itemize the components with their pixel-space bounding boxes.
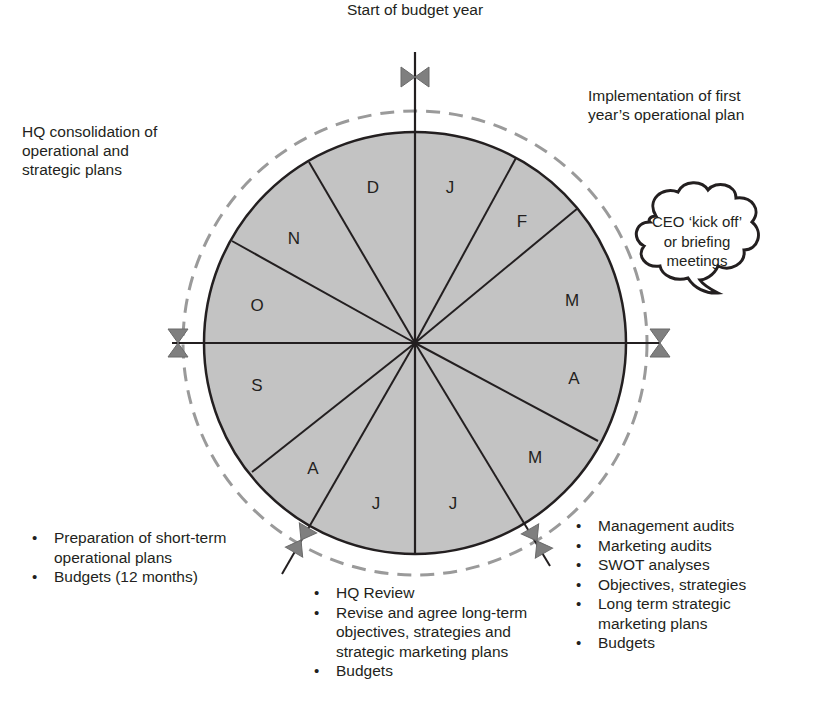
segment-label-sep: S bbox=[251, 376, 262, 395]
bullet-item: Marketing audits bbox=[572, 536, 812, 556]
segment-label-apr: A bbox=[568, 369, 580, 388]
segment-label-dec: D bbox=[367, 178, 379, 197]
audits-list: Management audits Marketing audits SWOT … bbox=[572, 516, 812, 653]
bullet-item: Budgets (12 months) bbox=[28, 567, 298, 587]
segment-label-jun: J bbox=[449, 494, 458, 513]
implementation-line-2: year’s operational plan bbox=[588, 105, 815, 124]
hq-consolidation-line-2: operational and bbox=[22, 141, 222, 160]
ceo-kickoff-cloud-text: CEO ‘kick off’ or briefing meetings bbox=[644, 212, 750, 271]
start-label-text: Start of budget year bbox=[347, 1, 483, 18]
bullet-item: Objectives, strategies bbox=[572, 575, 812, 595]
bullet-item: Budgets bbox=[310, 661, 560, 681]
bullet-item: Long term strategic marketing plans bbox=[572, 594, 773, 633]
bullet-item: HQ Review bbox=[310, 583, 560, 603]
hq-consolidation-label: HQ consolidation of operational and stra… bbox=[22, 122, 222, 179]
bullet-item: Budgets bbox=[572, 633, 812, 653]
start-of-budget-year-label: Start of budget year bbox=[315, 0, 515, 19]
segment-label-nov: N bbox=[288, 229, 300, 248]
hq-review-list: HQ Review Revise and agree long-term obj… bbox=[310, 583, 560, 681]
valve-icon-bottom-right bbox=[521, 524, 552, 558]
hq-consolidation-line-3: strategic plans bbox=[22, 160, 222, 179]
bullet-item: SWOT analyses bbox=[572, 555, 812, 575]
segment-label-jan: J bbox=[446, 178, 455, 197]
implementation-label: Implementation of first year’s operation… bbox=[588, 86, 815, 124]
cloud-line-2: or briefing bbox=[644, 232, 750, 252]
segment-label-aug: A bbox=[307, 459, 319, 478]
implementation-line-1: Implementation of first bbox=[588, 86, 815, 105]
segment-label-feb: F bbox=[517, 212, 527, 231]
short-term-plans-list: Preparation of short-term operational pl… bbox=[28, 528, 298, 587]
bullet-item: Revise and agree long-term objectives, s… bbox=[310, 603, 546, 662]
cloud-line-1: CEO ‘kick off’ bbox=[644, 212, 750, 232]
segment-label-oct: O bbox=[250, 296, 263, 315]
segment-label-mar: M bbox=[565, 291, 579, 310]
hq-consolidation-line-1: HQ consolidation of bbox=[22, 122, 222, 141]
segment-label-may: M bbox=[528, 448, 542, 467]
segment-label-jul: J bbox=[372, 494, 381, 513]
bullet-item: Management audits bbox=[572, 516, 812, 536]
bullet-item: Preparation of short-term operational pl… bbox=[28, 528, 274, 567]
cloud-line-3: meetings bbox=[644, 251, 750, 271]
